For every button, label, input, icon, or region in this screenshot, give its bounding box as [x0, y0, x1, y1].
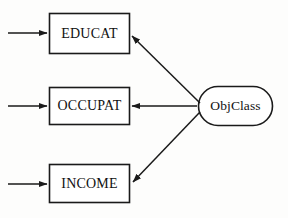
- diagram-graphics: [0, 0, 288, 218]
- node-occupat-shape[interactable]: [50, 88, 130, 125]
- edge-objclass-to-income: [133, 112, 200, 182]
- node-educat-shape[interactable]: [50, 14, 130, 54]
- edge-objclass-to-educat: [132, 36, 200, 103]
- node-income-shape[interactable]: [50, 165, 130, 203]
- node-objclass-shape[interactable]: [199, 87, 273, 126]
- diagram-canvas: EDUCAT OCCUPAT INCOME ObjClass: [0, 0, 288, 218]
